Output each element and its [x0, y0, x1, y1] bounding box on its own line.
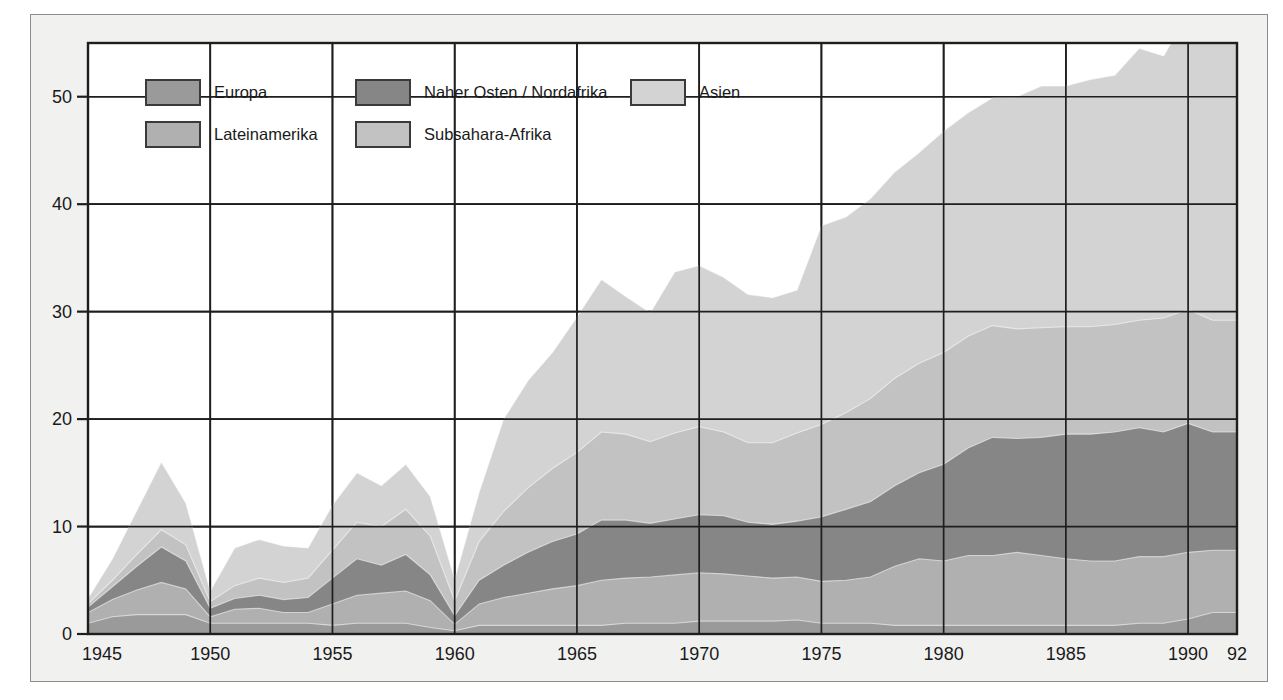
- legend-label: Lateinamerika: [214, 125, 318, 143]
- x-axis-tick-label: 1945: [82, 644, 122, 664]
- y-axis-tick-label: 0: [62, 624, 72, 644]
- legend-swatch: [146, 122, 200, 147]
- x-axis-tick-labels: 1945195019551960196519701975198019851990…: [82, 644, 1247, 664]
- y-axis-tick-label: 20: [52, 409, 72, 429]
- x-axis-tick-label: 1970: [679, 644, 719, 664]
- x-axis-tick-label: 1950: [190, 644, 230, 664]
- x-axis-tick-label: 1965: [557, 644, 597, 664]
- stacked-area-chart: 01020304050 1945195019551960196519701975…: [0, 0, 1283, 700]
- y-axis-tick-label: 10: [52, 517, 72, 537]
- legend-label: Asien: [699, 83, 740, 101]
- y-axis-tick-labels: 01020304050: [52, 87, 88, 644]
- legend-label: Subsahara-Afrika: [424, 125, 552, 143]
- x-axis-tick-label: 1960: [435, 644, 475, 664]
- x-axis-tick-label: 1980: [924, 644, 964, 664]
- legend-swatch: [356, 80, 410, 105]
- x-axis-tick-label: 1990: [1168, 644, 1208, 664]
- legend-swatch: [356, 122, 410, 147]
- y-axis-tick-label: 40: [52, 194, 72, 214]
- y-axis-tick-label: 30: [52, 302, 72, 322]
- figure-canvas: 01020304050 1945195019551960196519701975…: [0, 0, 1283, 700]
- x-axis-tick-label: 1975: [801, 644, 841, 664]
- plot-wrapper: 01020304050 1945195019551960196519701975…: [0, 0, 1283, 700]
- legend-swatch: [631, 80, 685, 105]
- x-axis-tick-label: 1985: [1046, 644, 1086, 664]
- x-axis-tick-label: 92: [1227, 644, 1247, 664]
- y-axis-tick-label: 50: [52, 87, 72, 107]
- legend-label: Europa: [214, 83, 268, 101]
- legend-label: Naher Osten / Nordafrika: [424, 83, 608, 101]
- legend-swatch: [146, 80, 200, 105]
- x-axis-tick-label: 1955: [312, 644, 352, 664]
